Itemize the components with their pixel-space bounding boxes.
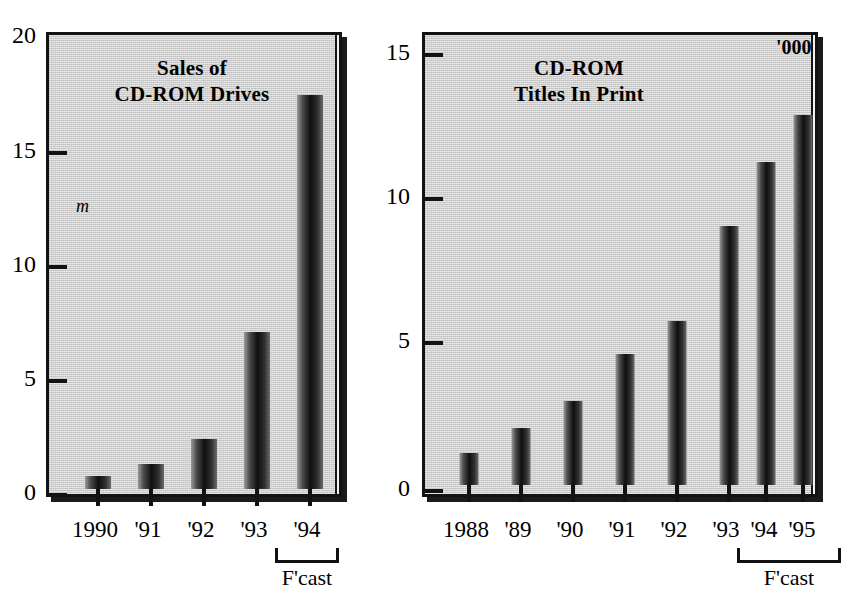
x-tick-label-1990-right: '90 [556, 517, 583, 543]
x-tick-mark-1990-right [571, 485, 575, 502]
forecast-bracket-left [275, 548, 339, 563]
panel-cd-rom-drives: 20 15 10 5 0 Sales of [0, 0, 424, 606]
forecast-bracket-right [737, 548, 841, 563]
x-tick-label-1993-right: '93 [712, 517, 739, 543]
y-tick-mark-0 [49, 493, 67, 497]
bar-1992 [191, 439, 217, 489]
y-tick-label-10-right: 10 [366, 183, 410, 210]
x-tick-mark-1994-right [764, 485, 768, 502]
y-tick-mark-5 [49, 379, 67, 383]
x-tick-mark-1990 [96, 489, 100, 506]
chart-title-cd-rom-drives: Sales of CD-ROM Drives [72, 56, 312, 107]
bar-1994-right [757, 162, 776, 485]
x-tick-label-1991: '91 [134, 517, 161, 543]
x-tick-mark-1992-right [675, 485, 679, 502]
x-tick-label-1991-right: '91 [608, 517, 635, 543]
y-tick-mark-15-right [425, 53, 443, 57]
bar-1995-right [794, 115, 813, 485]
bar-1992-right [668, 321, 687, 485]
x-tick-mark-1993 [255, 489, 259, 506]
y-tick-label-20: 20 [0, 22, 36, 49]
chart-title-cd-rom-titles: CD-ROM Titles In Print [464, 56, 694, 107]
x-tick-mark-1993-right [727, 485, 731, 502]
x-tick-label-1990: 1990 [72, 517, 118, 543]
plot-right-edge [335, 35, 339, 494]
y-tick-mark-0-right [425, 489, 443, 493]
x-tick-label-1994: '94 [293, 517, 320, 543]
x-tick-label-1995-right: '95 [788, 517, 815, 543]
x-tick-mark-1991-right [623, 485, 627, 502]
y-tick-label-15: 15 [0, 137, 36, 164]
y-tick-label-5-right: 5 [366, 327, 410, 354]
bar-1994 [297, 95, 323, 489]
bar-1990 [85, 476, 111, 489]
bar-1993-right [720, 226, 739, 485]
y-tick-label-5: 5 [0, 365, 36, 392]
bar-1989-right [512, 428, 531, 485]
unit-label-millions: m [76, 196, 89, 217]
y-tick-label-0-right: 0 [366, 475, 410, 502]
unit-label-thousands: '000 [776, 36, 812, 59]
bar-1988 [460, 453, 479, 485]
x-tick-label-1992-right: '92 [660, 517, 687, 543]
y-tick-mark-5-right [425, 341, 443, 345]
x-tick-mark-1994 [308, 489, 312, 506]
panel-cd-rom-titles: 15 10 5 0 [424, 0, 848, 606]
y-tick-label-0: 0 [0, 479, 36, 506]
forecast-label-right: F'cast [737, 565, 841, 591]
figure-two-bar-charts: 20 15 10 5 0 Sales of [0, 0, 848, 606]
y-tick-label-15-right: 15 [366, 39, 410, 66]
bar-1991 [138, 464, 164, 489]
x-tick-mark-1988 [467, 485, 471, 502]
x-tick-label-1989-right: '89 [504, 517, 531, 543]
bar-1991-right [616, 354, 635, 485]
x-tick-mark-1992 [202, 489, 206, 506]
x-tick-mark-1989-right [519, 485, 523, 502]
x-tick-mark-1991 [149, 489, 153, 506]
x-tick-label-1992: '92 [187, 517, 214, 543]
x-tick-label-1988: 1988 [443, 517, 489, 543]
bar-1993 [244, 332, 270, 489]
y-tick-label-10: 10 [0, 251, 36, 278]
x-tick-label-1993: '93 [240, 517, 267, 543]
y-tick-mark-10 [49, 265, 67, 269]
x-tick-mark-1995-right [801, 485, 805, 502]
bar-1990-right [564, 401, 583, 485]
forecast-label-left: F'cast [275, 565, 339, 591]
y-tick-mark-10-right [425, 197, 443, 201]
x-tick-label-1994-right: '94 [750, 517, 777, 543]
y-tick-mark-15 [49, 151, 67, 155]
